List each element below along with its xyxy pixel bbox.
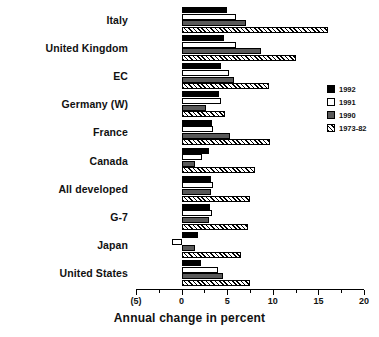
x-tick-minor-0 xyxy=(159,290,160,293)
bar-france-1973-82 xyxy=(182,139,270,145)
x-tick-minor-3 xyxy=(296,290,297,293)
category-label-all-developed: All developed xyxy=(58,182,128,196)
bar-italy-1992 xyxy=(182,7,228,13)
bar-united-states-1992 xyxy=(182,260,201,266)
plot-area xyxy=(136,6,364,287)
bar-ec-1973-82 xyxy=(182,83,270,89)
bar-france-1991 xyxy=(182,126,213,132)
bar-france-1992 xyxy=(182,120,212,126)
bar-group-all-developed xyxy=(136,176,364,202)
x-tick-minor-4 xyxy=(341,290,342,293)
bar-g-7-1990 xyxy=(182,217,209,223)
category-label-italy: Italy xyxy=(106,13,128,27)
x-tick-label-3: 10 xyxy=(253,296,293,306)
legend-label-1973-82: 1973-82 xyxy=(339,124,367,133)
x-tick-label-0: (5) xyxy=(116,296,156,306)
bar-group-united-states xyxy=(136,260,364,286)
x-tick-major-0 xyxy=(136,290,137,295)
x-tick-major-3 xyxy=(273,290,274,295)
bar-italy-1990 xyxy=(182,20,247,26)
bar-france-1990 xyxy=(182,133,230,139)
x-tick-major-1 xyxy=(182,290,183,295)
bar-chart: ItalyUnited KingdomECGermany (W)FranceCa… xyxy=(0,0,379,337)
bar-germany-w-1990 xyxy=(182,105,207,111)
bar-united-kingdom-1992 xyxy=(182,35,224,41)
bar-united-kingdom-1991 xyxy=(182,42,237,48)
legend: 1992199119901973-82 xyxy=(327,84,379,136)
category-label-canada: Canada xyxy=(89,154,128,168)
category-label-g-7: G-7 xyxy=(110,210,128,224)
bar-group-italy xyxy=(136,7,364,33)
bar-japan-1973-82 xyxy=(182,252,241,258)
bar-japan-1992 xyxy=(182,232,198,238)
category-label-france: France xyxy=(93,125,128,139)
x-tick-major-5 xyxy=(364,290,365,295)
category-label-united-kingdom: United Kingdom xyxy=(46,41,128,55)
bar-all-developed-1992 xyxy=(182,176,211,182)
bar-united-kingdom-1973-82 xyxy=(182,55,296,61)
bar-group-japan xyxy=(136,232,364,258)
legend-swatch-1990 xyxy=(327,111,335,119)
x-tick-label-1: 0 xyxy=(162,296,202,306)
bar-germany-w-1992 xyxy=(182,91,219,97)
legend-item-1973-82: 1973-82 xyxy=(327,123,379,133)
legend-label-1990: 1990 xyxy=(339,111,356,120)
legend-label-1992: 1992 xyxy=(339,85,356,94)
x-tick-label-4: 15 xyxy=(298,296,338,306)
legend-item-1992: 1992 xyxy=(327,84,379,94)
bar-united-states-1990 xyxy=(182,273,223,279)
bar-germany-w-1991 xyxy=(182,98,221,104)
bar-canada-1992 xyxy=(182,148,209,154)
bar-ec-1990 xyxy=(182,77,235,83)
x-tick-minor-1 xyxy=(204,290,205,293)
category-axis: ItalyUnited KingdomECGermany (W)FranceCa… xyxy=(0,0,128,281)
bar-group-canada xyxy=(136,148,364,174)
x-axis-title: Annual change in percent xyxy=(0,311,379,325)
bar-italy-1991 xyxy=(182,14,237,20)
category-label-united-states: United States xyxy=(60,266,128,280)
legend-swatch-1991 xyxy=(327,98,335,106)
bar-canada-1990 xyxy=(182,161,196,167)
bar-g-7-1992 xyxy=(182,204,210,210)
bar-all-developed-1973-82 xyxy=(182,196,250,202)
bar-united-kingdom-1990 xyxy=(182,48,261,54)
legend-label-1991: 1991 xyxy=(339,98,356,107)
bar-japan-1991 xyxy=(172,239,181,245)
x-tick-major-4 xyxy=(318,290,319,295)
category-label-japan: Japan xyxy=(97,238,128,252)
bar-united-states-1973-82 xyxy=(182,280,250,286)
bar-japan-1990 xyxy=(182,245,196,251)
bar-italy-1973-82 xyxy=(182,27,329,33)
x-tick-label-5: 20 xyxy=(344,296,379,306)
bar-canada-1973-82 xyxy=(182,167,255,173)
x-tick-label-2: 5 xyxy=(207,296,247,306)
bar-all-developed-1990 xyxy=(182,189,211,195)
bar-all-developed-1991 xyxy=(182,182,213,188)
x-tick-major-2 xyxy=(227,290,228,295)
bar-ec-1992 xyxy=(182,63,221,69)
bar-ec-1991 xyxy=(182,70,229,76)
legend-item-1991: 1991 xyxy=(327,97,379,107)
legend-swatch-1973-82 xyxy=(327,124,335,132)
category-label-ec: EC xyxy=(113,69,128,83)
bar-germany-w-1973-82 xyxy=(182,111,226,117)
bar-g-7-1973-82 xyxy=(182,224,249,230)
bar-united-states-1991 xyxy=(182,267,218,273)
bar-canada-1991 xyxy=(182,154,202,160)
category-label-germany-w: Germany (W) xyxy=(62,97,128,111)
bar-group-g-7 xyxy=(136,204,364,230)
bar-group-united-kingdom xyxy=(136,35,364,61)
bar-g-7-1991 xyxy=(182,210,212,216)
x-tick-minor-2 xyxy=(250,290,251,293)
legend-item-1990: 1990 xyxy=(327,110,379,120)
legend-swatch-1992 xyxy=(327,85,335,93)
